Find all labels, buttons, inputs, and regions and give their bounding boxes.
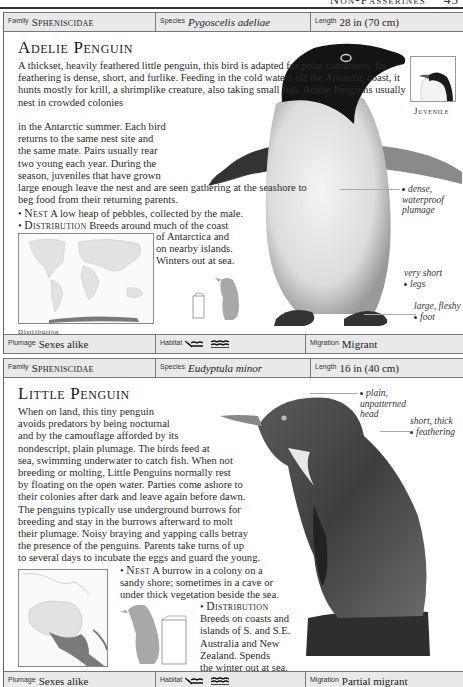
- length-value: 16 in (40 cm): [339, 362, 399, 374]
- family-label: Family: [8, 17, 29, 24]
- callout-line: [364, 314, 416, 315]
- text-line: their colonies after dark and leave agai…: [18, 491, 288, 503]
- nest-heading: Nest: [24, 207, 48, 219]
- text-line: Breeds on coasts and: [200, 613, 310, 625]
- callout-head: plain, unpatterned head: [360, 388, 406, 420]
- coast-icon: [185, 677, 203, 685]
- callout-line: [380, 431, 410, 432]
- migration-fact: Migration Partial migrant: [306, 672, 463, 687]
- juvenile-label: Juvenile: [414, 106, 449, 116]
- facts-bar-top: Family Spheniscidae Species Pygoscelis a…: [4, 12, 463, 32]
- plumage-value: Sexes alike: [39, 338, 89, 350]
- species-value: Pygoscelis adeliae: [188, 16, 270, 28]
- top-rule: [0, 7, 463, 9]
- family-fact: Family Spheniscidae: [4, 13, 156, 31]
- nest-heading: Nest: [126, 564, 150, 576]
- callout-feathering: short, thick feathering: [410, 416, 455, 437]
- habitat-fact: Habitat: [156, 672, 306, 687]
- species-title: Adelie Penguin: [18, 38, 133, 58]
- description-text: A thickset, heavily feathered little pen…: [18, 60, 413, 109]
- callout-text: unpatterned: [360, 399, 406, 410]
- australia-map-image: [19, 570, 108, 667]
- nest-description: A low heap of pebbles, collected by the …: [50, 208, 243, 219]
- callout-text: short, thick: [410, 416, 455, 427]
- family-label: Family: [8, 363, 29, 370]
- callout-text: very short: [404, 268, 442, 279]
- callout-text: plumage: [402, 205, 444, 216]
- text-line: sandy shore; sometimes in a cave or: [120, 577, 310, 589]
- distribution-map-australia: [18, 569, 108, 667]
- callout-text: feathering: [416, 427, 455, 437]
- description-wide: large enough leave the nest and are seen…: [18, 182, 318, 206]
- plumage-fact: Plumage Sexes alike: [4, 672, 156, 687]
- callout-text: legs: [410, 279, 425, 289]
- text-line: Winters out at sea.: [156, 255, 266, 267]
- text-line: Australia and New: [200, 638, 310, 650]
- distribution-heading: Distribution: [206, 600, 268, 612]
- family-value: Spheniscidae: [32, 16, 94, 28]
- entry-little-penguin: Family Spheniscidae Species Eudyptula mi…: [3, 358, 463, 687]
- description-narrow: in the Antarctic summer. Each bird retur…: [18, 121, 218, 182]
- distribution-map-world: [18, 233, 154, 324]
- text-line: avoids predators by being nocturnal: [18, 418, 288, 430]
- species-label: Species: [160, 363, 185, 370]
- bullet-dot: [402, 188, 405, 191]
- distribution-text: • Distribution Breeds on coasts and isla…: [200, 600, 310, 674]
- callout-plumage: dense, waterproof plumage: [402, 184, 444, 216]
- text-line: breeding and stay in the burrows afterwa…: [18, 516, 288, 528]
- size-comparison-silhouette: [120, 598, 190, 668]
- length-label: Length: [315, 17, 336, 24]
- callout-text: large, fleshy: [414, 301, 461, 312]
- text-line: The penguins typically use underground b…: [18, 504, 288, 516]
- callout-text: waterproof: [402, 195, 444, 206]
- callout-text: foot: [420, 312, 435, 322]
- text-line: in the Antarctic summer. Each bird: [18, 121, 218, 133]
- migration-label: Migration: [310, 676, 339, 683]
- species-title: Little Penguin: [18, 384, 130, 404]
- text-line: the presence of the penguins. Parents ta…: [18, 540, 288, 552]
- text-line: season, juveniles that have grown: [18, 170, 218, 182]
- migration-fact: Migration Migrant: [306, 335, 463, 353]
- running-head: Non-Passerines 43: [330, 0, 459, 6]
- family-value: Spheniscidae: [32, 362, 94, 374]
- text-line: nondescript, plain plumage. The birds fe…: [18, 443, 288, 455]
- text-line: on nearby islands.: [156, 243, 266, 255]
- page-number: 43: [444, 0, 459, 7]
- plumage-value: Sexes alike: [39, 675, 89, 687]
- bullet-dot: [360, 392, 363, 395]
- callout-legs: very short legs: [404, 268, 442, 289]
- juvenile-inset: [410, 56, 456, 102]
- migration-value: Migrant: [342, 338, 377, 350]
- facts-bar-top: Family Spheniscidae Species Eudyptula mi…: [4, 358, 463, 378]
- habitat-fact: Habitat: [156, 335, 306, 353]
- entry-adelie-penguin: Family Spheniscidae Species Pygoscelis a…: [3, 12, 463, 354]
- text-line: A burrow in a colony on a: [152, 565, 263, 576]
- callout-text: dense,: [408, 184, 432, 194]
- facts-bar-bottom: Plumage Sexes alike Habitat Migration Mi…: [4, 334, 463, 354]
- species-label: Species: [160, 17, 185, 24]
- callout-foot: large, fleshy foot: [414, 301, 461, 322]
- bullet-dot: [404, 283, 407, 286]
- callout-line: [310, 393, 358, 394]
- text-line: their plumage. Noisy braying and yapping…: [18, 528, 288, 540]
- length-value: 28 in (70 cm): [339, 16, 399, 28]
- family-fact: Family Spheniscidae: [4, 359, 156, 377]
- juvenile-penguin-image: [411, 57, 456, 102]
- plumage-label: Plumage: [8, 339, 36, 346]
- callout-line: [340, 189, 400, 190]
- text-line: two young each year. During the: [18, 158, 218, 170]
- description-text: When on land, this tiny penguin avoids p…: [18, 406, 288, 565]
- size-comparison-silhouette: [189, 274, 249, 324]
- text-line: by floating on the open water. Parties c…: [18, 479, 288, 491]
- bullet-dot: [414, 316, 417, 319]
- text-line: the same mate. Pairs usually rear: [18, 145, 218, 157]
- coast-icon: [185, 340, 203, 348]
- migration-value: Partial migrant: [342, 675, 408, 687]
- plumage-fact: Plumage Sexes alike: [4, 335, 156, 353]
- text-line: returns to the same nest site and: [18, 133, 218, 145]
- sea-icon: [211, 677, 229, 685]
- callout-text: plain,: [366, 388, 388, 398]
- migration-label: Migration: [310, 339, 339, 346]
- text-line: islands of S. and S.E.: [200, 625, 310, 637]
- length-fact: Length 16 in (40 cm): [311, 359, 463, 377]
